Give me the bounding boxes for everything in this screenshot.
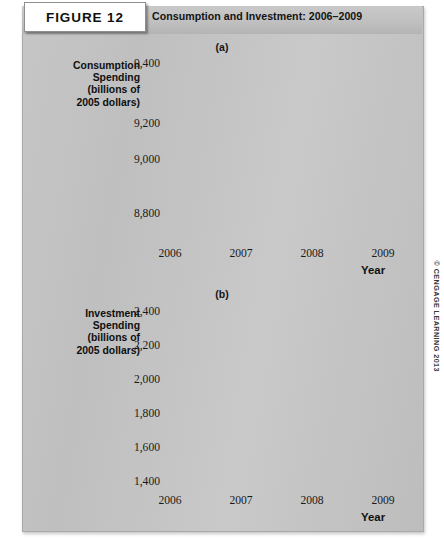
copyright-credit: © CENGAGE LEARNING 2013 xyxy=(432,260,441,372)
figure-title: Consumption and Investment: 2006–2009 xyxy=(152,10,362,22)
figure-root: FIGURE 12 Consumption and Investment: 20… xyxy=(0,0,444,558)
charts-canvas xyxy=(0,0,444,558)
figure-number-label: FIGURE 12 xyxy=(46,10,124,25)
figure-number-badge: FIGURE 12 xyxy=(24,2,146,32)
